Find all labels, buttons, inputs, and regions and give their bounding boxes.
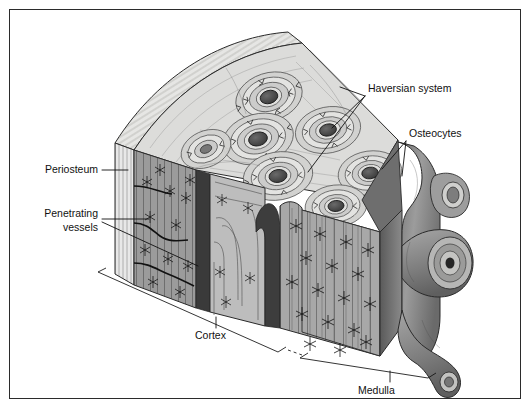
medulla-trabeculae (398, 142, 473, 397)
left-side-face (115, 143, 196, 308)
cortex-left-face (134, 150, 196, 308)
label-haversian-system: Haversian system (368, 82, 452, 94)
volkmann-canal (196, 170, 210, 312)
figure-frame: Haversian system Osteocytes Periosteum P… (9, 9, 521, 399)
label-medulla: Medulla (358, 384, 395, 396)
periosteum-layer (115, 143, 134, 285)
label-osteocytes: Osteocytes (409, 127, 462, 139)
cortex-front-face (280, 202, 380, 357)
label-periosteum: Periosteum (45, 163, 98, 175)
figure-page: Haversian system Osteocytes Periosteum P… (0, 0, 531, 414)
label-cortex: Cortex (195, 329, 227, 341)
label-penetrating-vessels-line2: vessels (63, 221, 98, 233)
label-penetrating-vessels-line1: Penetrating (44, 207, 98, 219)
bone-structure-diagram: Haversian system Osteocytes Periosteum P… (10, 10, 522, 400)
haversian-canal (446, 258, 455, 269)
